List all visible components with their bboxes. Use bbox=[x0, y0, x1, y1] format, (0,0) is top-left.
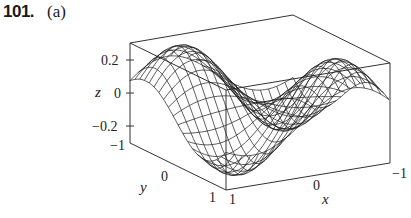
surface-mesh bbox=[130, 45, 389, 176]
x-tick-0: 0 bbox=[313, 178, 320, 193]
x-tick-neg1: −1 bbox=[392, 166, 407, 181]
surface-plot: 0.2 0 −0.2 z −1 0 1 y 1 0 −1 x bbox=[0, 0, 411, 218]
x-tick-1: 1 bbox=[229, 192, 236, 207]
y-axis-label: y bbox=[138, 179, 147, 195]
z-tick-neg0.2: −0.2 bbox=[92, 119, 117, 134]
z-tick-0.2: 0.2 bbox=[101, 53, 119, 68]
x-axis-label: x bbox=[321, 191, 329, 207]
y-tick-1: 1 bbox=[209, 190, 216, 205]
y-tick-0: 0 bbox=[161, 169, 168, 184]
z-axis-label: z bbox=[94, 84, 101, 100]
y-tick-neg1: −1 bbox=[110, 138, 125, 153]
z-tick-0: 0 bbox=[114, 86, 121, 101]
mesh-lines bbox=[130, 45, 389, 176]
